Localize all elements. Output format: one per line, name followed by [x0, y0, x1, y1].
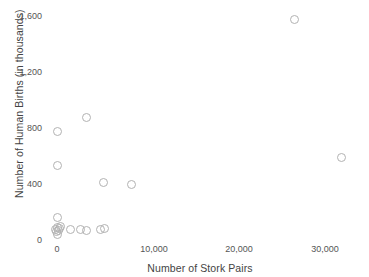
data-point [53, 213, 62, 222]
data-point [66, 225, 75, 234]
data-point [82, 113, 91, 122]
data-point [53, 127, 62, 136]
data-point [290, 15, 299, 24]
data-point [100, 224, 109, 233]
scatter-plot-figure: Number of Human Births (in thousands) Nu… [0, 0, 369, 277]
data-point [127, 180, 136, 189]
data-points-layer [0, 0, 369, 277]
data-point [53, 161, 62, 170]
data-point [51, 225, 60, 234]
data-point [82, 226, 91, 235]
data-point [337, 153, 346, 162]
data-point [99, 178, 108, 187]
